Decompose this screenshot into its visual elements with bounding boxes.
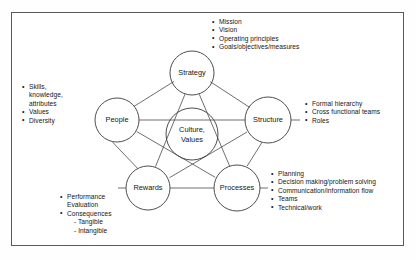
annotation-processes: •Planning •Decision making/problem solvi… [271,170,376,212]
bullet-icon: • [212,43,215,51]
edge-people-strategy [134,81,174,106]
bullet-icon: • [305,116,308,124]
node-people[interactable]: People [95,98,139,142]
node-strategy-label: Strategy [178,68,206,77]
node-rewards[interactable]: Rewards [126,166,170,210]
annotation-strategy-item-2: Operating principles [219,35,279,42]
center-node-circle [166,108,218,160]
annotation-strategy-item-3: Goals/objectives/measures [219,43,299,50]
list-item: •Values [22,108,63,116]
annotation-rewards: •Performance Evaluation •Consequences - … [60,193,112,235]
list-item: •Operating principles [212,35,299,43]
bullet-icon: • [22,83,25,91]
annotation-rewards-sub-1: - Intangible [74,227,107,234]
bullet-icon: • [305,108,308,116]
edge-rewards-people [113,142,138,169]
list-sub-item: - Intangible [60,227,112,235]
annotation-processes-list: •Planning •Decision making/problem solvi… [271,170,376,212]
diagram-canvas: Culture, Values Strategy People Structur… [0,0,416,260]
annotation-processes-item-1: Decision making/problem solving [278,178,376,185]
annotation-people-item-1: Values [29,108,49,115]
edge-structure-processes [247,142,262,166]
list-item: •Diversity [22,117,63,125]
annotation-people-item-2: Diversity [29,117,55,124]
bullet-icon: • [22,116,25,124]
center-node[interactable]: Culture, Values [166,108,218,160]
list-item: •Consequences [60,210,112,218]
annotation-people-cont-1: attributes [29,100,57,107]
list-item-continuation: Evaluation [60,201,112,209]
list-item: •Technical/work [271,204,376,212]
annotation-rewards-cont-0: Evaluation [67,201,98,208]
node-strategy[interactable]: Strategy [170,51,214,95]
bullet-icon: • [305,100,308,108]
bullet-icon: • [60,193,63,201]
edge-strategy-structure [210,82,250,108]
annotation-structure: •Formal hierarchy •Cross functional team… [305,100,380,125]
annotation-rewards-list: •Performance Evaluation •Consequences - … [60,193,112,235]
annotation-structure-item-1: Cross functional teams [312,108,380,115]
annotation-structure-item-0: Formal hierarchy [312,100,362,107]
list-item: •Vision [212,26,299,34]
list-item: •Formal hierarchy [305,100,380,108]
annotation-people-list: •Skills, knowledge, attributes •Values •… [22,83,63,125]
annotation-strategy-list: •Mission •Vision •Operating principles •… [212,18,299,52]
bullet-icon: • [271,203,274,211]
list-item: •Decision making/problem solving [271,178,376,186]
bullet-icon: • [22,108,25,116]
list-item: •Roles [305,117,380,125]
bullet-icon: • [271,195,274,203]
bullet-icon: • [271,186,274,194]
annotation-people: •Skills, knowledge, attributes •Values •… [22,83,63,125]
bullet-icon: • [60,209,63,217]
annotation-strategy-item-0: Mission [219,18,242,25]
node-processes[interactable]: Processes [214,165,260,211]
bullet-icon: • [212,18,215,26]
list-item: •Teams [271,195,376,203]
annotation-strategy-item-1: Vision [219,26,237,33]
center-node-label-line1: Culture, [179,125,205,134]
center-node-label-line2: Values [181,135,203,144]
bullet-icon: • [212,26,215,34]
node-processes-label: Processes [220,183,255,192]
list-sub-item: - Tangible [60,218,112,226]
annotation-structure-list: •Formal hierarchy •Cross functional team… [305,100,380,125]
bullet-icon: • [271,170,274,178]
list-item: •Goals/objectives/measures [212,43,299,51]
bullet-icon: • [212,34,215,42]
list-item: •Communication/information flow [271,187,376,195]
list-item: •Cross functional teams [305,108,380,116]
annotation-processes-item-2: Communication/information flow [278,187,373,194]
node-rewards-label: Rewards [133,183,162,192]
annotation-processes-item-0: Planning [278,170,304,177]
annotation-processes-item-3: Teams [278,195,298,202]
annotation-strategy: •Mission •Vision •Operating principles •… [212,18,299,52]
annotation-rewards-sub-0: - Tangible [74,218,103,225]
annotation-rewards-item-1: Consequences [67,210,112,217]
annotation-rewards-item-0: Performance [67,193,105,200]
bullet-icon: • [271,178,274,186]
annotation-people-item-0: Skills, [29,83,47,90]
annotation-structure-item-2: Roles [312,117,329,124]
node-structure[interactable]: Structure [245,97,291,143]
list-item: •Mission [212,18,299,26]
list-item: •Performance [60,193,112,201]
list-item-continuation: knowledge, [22,91,63,99]
annotation-people-cont-0: knowledge, [29,91,63,98]
list-item: •Planning [271,170,376,178]
list-item-continuation: attributes [22,100,63,108]
list-item: •Skills, [22,83,63,91]
node-people-label: People [105,115,128,124]
annotation-processes-item-4: Technical/work [278,204,322,211]
node-structure-label: Structure [253,115,283,124]
